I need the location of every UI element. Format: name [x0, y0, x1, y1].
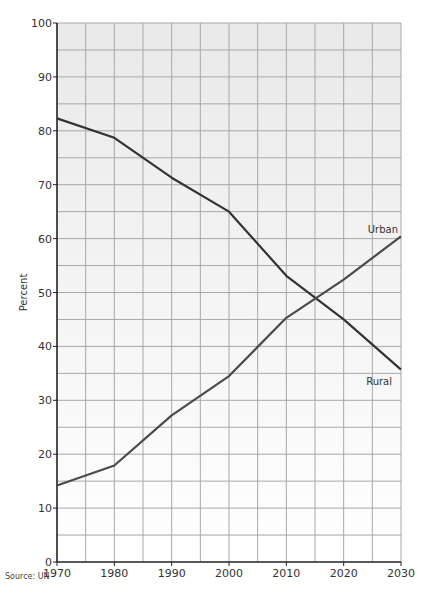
y-tick-label: 30 — [38, 394, 52, 407]
x-tick-label: 2030 — [387, 567, 415, 580]
urban-series-label: Urban — [368, 224, 398, 235]
y-tick-label: 80 — [38, 125, 52, 138]
source-note: Source: UN — [5, 572, 50, 581]
x-tick-label: 2000 — [215, 567, 243, 580]
y-tick-label: 50 — [38, 287, 52, 300]
y-tick-label: 70 — [38, 179, 52, 192]
y-axis-ticks: 0102030405060708090100 — [31, 17, 57, 569]
y-tick-label: 10 — [38, 502, 52, 515]
x-tick-label: 1990 — [158, 567, 186, 580]
y-tick-label: 100 — [31, 17, 52, 30]
y-tick-label: 20 — [38, 448, 52, 461]
x-axis-ticks: 1970198019902000201020202030 — [43, 562, 415, 580]
y-tick-label: 90 — [38, 71, 52, 84]
x-tick-label: 2020 — [330, 567, 358, 580]
x-tick-label: 2010 — [272, 567, 300, 580]
y-tick-label: 60 — [38, 233, 52, 246]
line-chart: 0102030405060708090100 19701980199020002… — [0, 0, 436, 611]
grid-lines — [57, 23, 401, 562]
y-axis-title: Percent — [18, 274, 29, 312]
y-tick-label: 40 — [38, 340, 52, 353]
x-tick-label: 1980 — [100, 567, 128, 580]
rural-series-label: Rural — [366, 376, 392, 387]
